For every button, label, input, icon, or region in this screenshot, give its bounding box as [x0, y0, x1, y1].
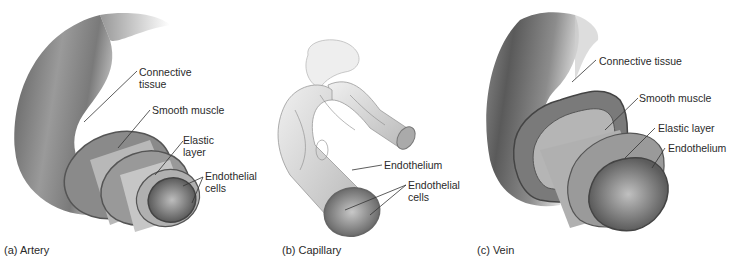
- label-line: Elastic: [183, 134, 214, 146]
- capillary-panel: Endothelium Endothelial cells (b) Capill…: [240, 0, 490, 268]
- artery-label-connective-tissue: Connective tissue: [139, 66, 192, 90]
- vein-panel: Connective tissue Smooth muscle Elastic …: [480, 0, 738, 268]
- vein-illustration: [480, 0, 738, 268]
- artery-panel: Connective tissue Smooth muscle Elastic …: [0, 0, 250, 268]
- label-line: cells: [408, 191, 460, 203]
- label-line: Connective: [139, 66, 192, 78]
- artery-caption: (a) Artery: [4, 244, 49, 256]
- artery-label-smooth-muscle: Smooth muscle: [152, 104, 224, 116]
- vein-caption: (c) Vein: [477, 244, 514, 256]
- vein-label-elastic-layer: Elastic layer: [658, 122, 715, 134]
- capillary-caption: (b) Capillary: [282, 244, 341, 256]
- label-line: Endothelial: [408, 179, 460, 191]
- capillary-label-endothelial-cells: Endothelial cells: [408, 179, 460, 203]
- vein-label-endothelium: Endothelium: [668, 142, 726, 154]
- vein-label-connective-tissue: Connective tissue: [599, 55, 682, 67]
- artery-label-elastic-layer: Elastic layer: [183, 134, 214, 158]
- label-line: layer: [183, 146, 214, 158]
- label-line: tissue: [139, 78, 192, 90]
- vein-label-smooth-muscle: Smooth muscle: [639, 92, 711, 104]
- capillary-illustration: [240, 0, 490, 268]
- capillary-label-endothelium: Endothelium: [384, 159, 442, 171]
